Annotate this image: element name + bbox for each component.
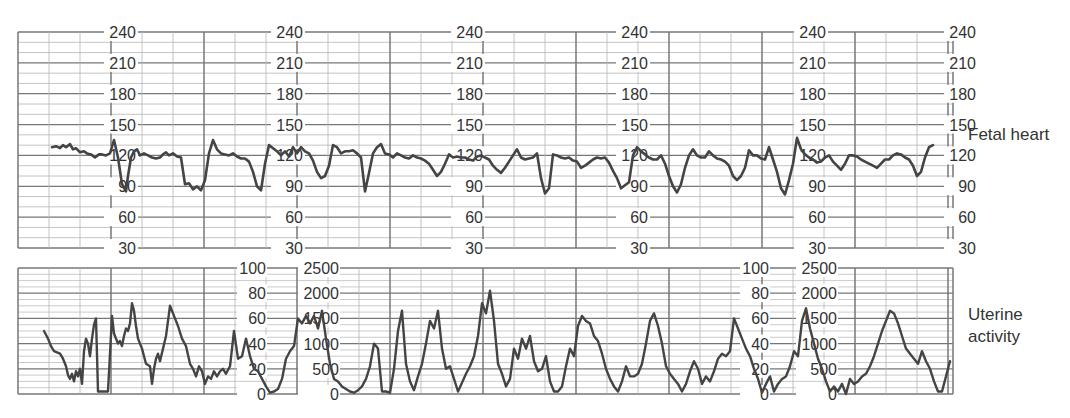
- svg-text:210: 210: [276, 55, 303, 72]
- svg-text:30: 30: [118, 240, 136, 257]
- svg-text:120: 120: [949, 147, 976, 164]
- svg-text:40: 40: [751, 336, 769, 353]
- svg-text:240: 240: [799, 24, 826, 41]
- svg-text:180: 180: [456, 86, 483, 103]
- svg-text:60: 60: [285, 209, 303, 226]
- svg-text:150: 150: [456, 117, 483, 134]
- svg-text:2000: 2000: [303, 285, 339, 302]
- svg-text:100: 100: [742, 260, 769, 277]
- svg-text:60: 60: [630, 209, 648, 226]
- uterine-activity-label-line1: Uterine: [968, 304, 1023, 326]
- svg-text:30: 30: [630, 240, 648, 257]
- svg-text:90: 90: [808, 178, 826, 195]
- svg-text:150: 150: [799, 117, 826, 134]
- svg-text:60: 60: [118, 209, 136, 226]
- svg-text:60: 60: [808, 209, 826, 226]
- svg-text:210: 210: [621, 55, 648, 72]
- svg-text:180: 180: [949, 86, 976, 103]
- svg-text:180: 180: [109, 86, 136, 103]
- svg-text:60: 60: [751, 310, 769, 327]
- svg-text:240: 240: [276, 24, 303, 41]
- uterine-activity-label: Uterine activity: [968, 304, 1023, 348]
- ctg-figure: 2402101801501209060302402101801501209060…: [0, 0, 1070, 418]
- svg-text:1000: 1000: [303, 336, 339, 353]
- svg-text:240: 240: [456, 24, 483, 41]
- svg-text:60: 60: [248, 310, 266, 327]
- svg-text:240: 240: [109, 24, 136, 41]
- svg-text:2500: 2500: [801, 260, 837, 277]
- svg-text:60: 60: [958, 209, 976, 226]
- svg-text:80: 80: [751, 285, 769, 302]
- svg-text:2500: 2500: [303, 260, 339, 277]
- uterine-activity-label-line2: activity: [968, 326, 1023, 348]
- svg-text:0: 0: [330, 386, 339, 403]
- svg-text:500: 500: [312, 361, 339, 378]
- ctg-chart: 2402101801501209060302402101801501209060…: [0, 0, 1070, 418]
- svg-text:90: 90: [465, 178, 483, 195]
- svg-text:30: 30: [285, 240, 303, 257]
- svg-text:150: 150: [109, 117, 136, 134]
- svg-text:90: 90: [630, 178, 648, 195]
- svg-text:2000: 2000: [801, 285, 837, 302]
- svg-text:240: 240: [621, 24, 648, 41]
- svg-text:30: 30: [958, 240, 976, 257]
- svg-text:0: 0: [257, 386, 266, 403]
- svg-text:30: 30: [808, 240, 826, 257]
- svg-text:80: 80: [248, 285, 266, 302]
- svg-text:40: 40: [248, 336, 266, 353]
- fetal-heart-label: Fetal heart: [968, 124, 1049, 146]
- svg-text:210: 210: [456, 55, 483, 72]
- svg-text:60: 60: [465, 209, 483, 226]
- svg-text:180: 180: [276, 86, 303, 103]
- svg-text:30: 30: [465, 240, 483, 257]
- svg-text:90: 90: [285, 178, 303, 195]
- svg-text:90: 90: [958, 178, 976, 195]
- svg-text:210: 210: [109, 55, 136, 72]
- svg-text:210: 210: [799, 55, 826, 72]
- svg-text:20: 20: [248, 361, 266, 378]
- uterine-activity-trace: [44, 291, 950, 394]
- svg-text:150: 150: [621, 117, 648, 134]
- svg-text:210: 210: [949, 55, 976, 72]
- svg-text:1000: 1000: [801, 336, 837, 353]
- svg-text:240: 240: [949, 24, 976, 41]
- svg-text:180: 180: [621, 86, 648, 103]
- svg-text:150: 150: [276, 117, 303, 134]
- svg-text:180: 180: [799, 86, 826, 103]
- svg-text:100: 100: [239, 260, 266, 277]
